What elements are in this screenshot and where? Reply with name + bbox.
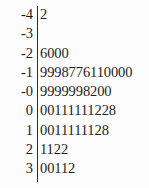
stem-leaf-row: 0 00111111228	[0, 101, 149, 120]
stem-leaf-row: 3 00112	[0, 159, 149, 178]
stem-leaf-divider-rule	[37, 6, 38, 182]
stem-value: 2	[0, 140, 33, 159]
leaf-values: 0011111128	[33, 121, 109, 140]
stem-value: -0	[0, 82, 33, 101]
stem-and-leaf-plot: -4 2 -3 -2 6000 -1 9998776110000 -0 9999…	[0, 0, 149, 188]
leaf-values: 2	[33, 5, 47, 24]
stem-leaf-row: -4 2	[0, 5, 149, 24]
stem-value: 1	[0, 121, 33, 140]
stem-leaf-row: 2 1122	[0, 140, 149, 159]
stem-value: 0	[0, 101, 33, 120]
stem-value: -1	[0, 63, 33, 82]
stem-leaf-row: -0 9999998200	[0, 82, 149, 101]
leaf-values: 6000	[33, 44, 69, 63]
stem-value: -4	[0, 5, 33, 24]
stem-value: 3	[0, 159, 33, 178]
leaf-values: 9998776110000	[33, 63, 132, 82]
leaf-values: 1122	[33, 140, 68, 159]
leaf-values: 00112	[33, 159, 75, 178]
stem-leaf-row: -2 6000	[0, 44, 149, 63]
stem-leaf-row: -1 9998776110000	[0, 63, 149, 82]
leaf-values: 9999998200	[33, 82, 112, 101]
stem-leaf-row: 1 0011111128	[0, 121, 149, 140]
stem-leaf-row: -3	[0, 24, 149, 43]
leaf-values: 00111111228	[33, 101, 116, 120]
stem-value: -3	[0, 24, 33, 43]
stem-value: -2	[0, 44, 33, 63]
